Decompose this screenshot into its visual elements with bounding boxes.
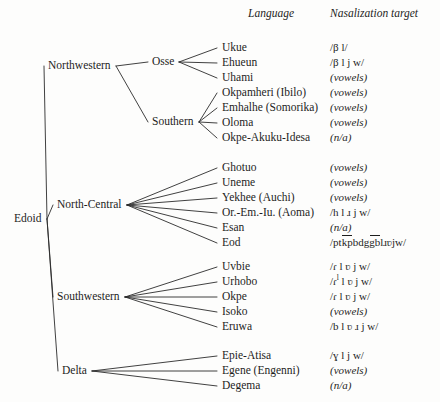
nasalization-target-uhami: (vowels) [330,72,367,83]
tree-node-southwestern: Southwestern [57,291,120,303]
tree-leaf-okpamheri-ibilo: Okpamheri (Ibilo) [222,87,306,99]
nasalization-target-okpamheri-ibilo: (vowels) [330,87,367,98]
nasalization-target-eod: /ptkpbdggblɹʋjw/ [330,237,406,248]
tree-leaf-oloma: Oloma [222,117,253,129]
tree-leaf-okpe-akuku-idesa: Okpe-Akuku-Idesa [222,132,310,144]
tree-leaf-eruwa: Eruwa [222,321,252,333]
tree-leaf-or-em-iu-aoma: Or.-Em.-Iu. (Aoma) [222,207,314,219]
nasalization-target-epie-atisa: /ɣ l j w/ [330,350,364,361]
nasalization-target-or-em-iu-aoma: /h l ɹ j w/ [330,207,370,218]
nasalization-target-oloma: (vowels) [330,117,367,128]
tree-node-northwestern: Northwestern [48,60,111,72]
tree-leaf-uneme: Uneme [222,177,255,189]
tree-leaf-uvbie: Uvbie [222,261,250,273]
nasalization-target-ghotuo: (vowels) [330,162,367,173]
column-header-language: Language [248,8,294,20]
edoid-nasalization-figure: Language Nasalization target EdoidNorthw… [0,0,440,402]
nasalization-target-ehueun: /β l j w/ [330,57,364,68]
nasalization-target-yekhee-auchi: (vowels) [330,192,367,203]
nasalization-target-emhalhe-somorika: (vowels) [330,102,367,113]
nasalization-target-isoko: (vowels) [330,306,367,317]
nasalization-target-okpe: /ɾ l ʋ j w/ [330,291,370,302]
tree-leaf-urhobo: Urhobo [222,276,257,288]
tree-node-southern: Southern [152,116,194,128]
tree-leaf-ukue: Ukue [222,42,247,54]
nasalization-target-urhobo: /ɾl l ʋ j w/ [330,276,372,287]
column-header-nasalization-target: Nasalization target [330,8,418,20]
tree-node-root: Edoid [14,213,41,225]
nasalization-target-eruwa: /b l ʋ ɹ j w/ [330,321,378,332]
tree-leaf-egene-engenni: Egene (Engenni) [222,365,300,377]
tree-leaf-degema: Degema [222,380,260,392]
tree-leaf-eod: Eod [222,237,241,249]
nasalization-target-uvbie: /ɾ l ʋ j w/ [330,261,370,272]
tree-node-osse: Osse [152,56,174,68]
tree-leaf-ehueun: Ehueun [222,57,257,69]
nasalization-target-uneme: (vowels) [330,177,367,188]
tree-leaf-yekhee-auchi: Yekhee (Auchi) [222,192,295,204]
tree-node-north-central: North-Central [57,199,122,211]
tree-leaf-uhami: Uhami [222,72,253,84]
tree-leaf-emhalhe-somorika: Emhalhe (Somorika) [222,102,318,114]
nasalization-target-degema: (n/a) [330,380,351,391]
tree-leaf-epie-atisa: Epie-Atisa [222,350,271,362]
nasalization-target-egene-engenni: (vowels) [330,365,367,376]
nasalization-target-okpe-akuku-idesa: (n/a) [330,132,351,143]
tree-leaf-okpe: Okpe [222,291,247,303]
nasalization-target-ukue: /β l/ [330,42,348,53]
tree-leaf-ghotuo: Ghotuo [222,162,257,174]
tree-leaf-isoko: Isoko [222,306,248,318]
tree-node-delta: Delta [62,365,87,377]
nasalization-target-esan: (n/a) [330,222,351,233]
tree-leaf-esan: Esan [222,222,244,234]
